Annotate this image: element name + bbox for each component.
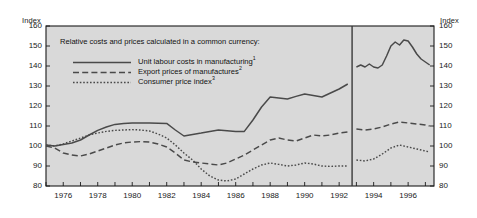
y-axis-label-left: 120 [20, 101, 42, 110]
plot-area [46, 26, 434, 186]
plot-svg [0, 0, 477, 218]
x-axis-label: 1982 [150, 191, 184, 200]
legend-footnote-marker: 2 [239, 65, 242, 71]
y-axis-label-left: 140 [20, 61, 42, 70]
legend-footnote-marker: 3 [212, 75, 215, 81]
x-axis-label: 1992 [322, 191, 356, 200]
y-axis-label-right: 90 [439, 161, 461, 170]
x-axis-label: 1976 [46, 191, 80, 200]
legend-item-consumer-price-index: Consumer price index3 [138, 77, 215, 86]
legend-item-export-prices: Export prices of manufactures2 [138, 67, 242, 76]
x-axis-label: 1980 [115, 191, 149, 200]
x-axis-label: 1994 [357, 191, 391, 200]
y-axis-label-left: 80 [20, 181, 42, 190]
x-axis-label: 1990 [288, 191, 322, 200]
x-axis-label: 1996 [391, 191, 425, 200]
y-axis-label-right: 140 [439, 61, 461, 70]
y-axis-label-right: 120 [439, 101, 461, 110]
x-axis-label: 1986 [219, 191, 253, 200]
y-axis-label-left: 150 [20, 41, 42, 50]
y-axis-label-right: 100 [439, 141, 461, 150]
chart-container: Index Index 8080909010010011011012012013… [0, 0, 477, 218]
y-axis-label-right: 160 [439, 21, 461, 30]
x-axis-label: 1988 [253, 191, 287, 200]
legend-footnote-marker: 1 [253, 55, 256, 61]
y-axis-label-left: 160 [20, 21, 42, 30]
y-axis-label-right: 130 [439, 81, 461, 90]
y-axis-label-right: 110 [439, 121, 461, 130]
y-axis-label-left: 90 [20, 161, 42, 170]
y-axis-label-left: 130 [20, 81, 42, 90]
y-axis-label-left: 110 [20, 121, 42, 130]
y-axis-label-left: 100 [20, 141, 42, 150]
x-axis-label: 1984 [184, 191, 218, 200]
y-axis-label-right: 80 [439, 181, 461, 190]
x-axis-label: 1978 [81, 191, 115, 200]
legend-title: Relative costs and prices calculated in … [60, 37, 260, 46]
y-axis-label-right: 150 [439, 41, 461, 50]
